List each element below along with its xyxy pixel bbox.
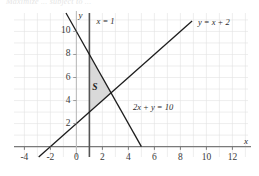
x-tick-label-2: 2 — [100, 153, 105, 163]
line-2x-y-10 — [66, 13, 141, 147]
x-tick-label-6: 6 — [152, 153, 157, 163]
graph-figure: Maximize ... subject to ... -4-202468101… — [0, 0, 259, 176]
equation-label-y-x-2: y = x + 2 — [198, 17, 230, 26]
y-tick-label-2: 2 — [66, 119, 71, 129]
y-tick-label-10: 10 — [61, 27, 71, 37]
x-tick-label-12: 12 — [228, 153, 238, 163]
x-tick-label-4: 4 — [126, 153, 131, 163]
x-axis-label: x — [244, 137, 248, 146]
y-tick-label-8: 8 — [66, 50, 71, 60]
region-label-s: S — [92, 83, 97, 93]
x-tick-label-0: 0 — [74, 153, 79, 163]
equation-label-2x-y-10: 2x + y = 10 — [133, 103, 173, 112]
x-tick-label-8: 8 — [178, 153, 183, 163]
x-tick-label-neg2: -2 — [46, 153, 54, 163]
y-tick-label-4: 4 — [66, 96, 71, 106]
x-tick-label-10: 10 — [202, 153, 212, 163]
y-tick-label-6: 6 — [66, 73, 71, 83]
gridlines — [14, 13, 248, 157]
y-axis-label: y — [79, 10, 83, 19]
x-tick-label-neg4: -4 — [20, 153, 28, 163]
plot-canvas — [0, 0, 259, 176]
equation-label-x-1: x = 1 — [97, 17, 115, 26]
